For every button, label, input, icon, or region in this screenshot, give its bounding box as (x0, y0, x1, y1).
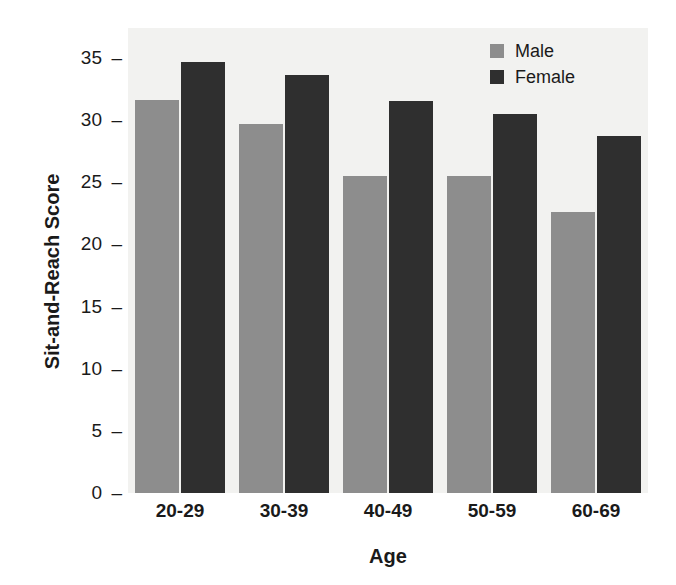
bar-30-39-male (239, 124, 283, 493)
bar-40-49-male (343, 176, 387, 493)
y-axis-tick-mark: – (111, 233, 122, 255)
x-axis-tick-label: 50-59 (468, 500, 517, 522)
y-axis-tick-label: 15 (81, 296, 102, 318)
legend-swatch-icon (490, 70, 504, 84)
legend-item-male: Male (490, 38, 575, 64)
y-axis-tick-mark: – (111, 171, 122, 193)
y-axis-tick-label: 20 (81, 233, 102, 255)
x-axis-tick-label: 20-29 (156, 500, 205, 522)
legend-swatch-icon (490, 44, 504, 58)
bar-20-29-male (135, 100, 179, 493)
legend-item-label: Female (515, 68, 575, 86)
bar-30-39-female (285, 75, 329, 493)
bar-60-69-male (551, 212, 595, 493)
y-axis-tick-label: 10 (81, 358, 102, 380)
bar-50-59-male (447, 176, 491, 493)
y-axis-tick-label: 5 (91, 420, 102, 442)
y-axis-tick-mark: – (111, 109, 122, 131)
chart-legend: MaleFemale (490, 38, 575, 90)
x-axis-tick-label: 60-69 (572, 500, 621, 522)
y-axis-tick-label: 25 (81, 171, 102, 193)
y-axis-ticks: 0–5–10–15–20–25–30–35– (0, 0, 128, 585)
y-axis-tick-mark: – (111, 296, 122, 318)
x-axis-tick-label: 40-49 (364, 500, 413, 522)
y-axis-tick-mark: – (111, 420, 122, 442)
bar-20-29-female (181, 62, 225, 493)
y-axis-tick-label: 0 (91, 482, 102, 504)
x-axis-tick-label: 30-39 (260, 500, 309, 522)
y-axis-tick-label: 30 (81, 109, 102, 131)
y-axis-tick-mark: – (111, 482, 122, 504)
plot-area (128, 28, 648, 493)
y-axis-tick-mark: – (111, 47, 122, 69)
legend-item-female: Female (490, 64, 575, 90)
bar-chart-figure: Sit-and-Reach Score 0–5–10–15–20–25–30–3… (0, 0, 676, 585)
bar-40-49-female (389, 101, 433, 493)
legend-item-label: Male (515, 42, 554, 60)
bar-60-69-female (597, 136, 641, 493)
y-axis-tick-mark: – (111, 358, 122, 380)
y-axis-tick-label: 35 (81, 47, 102, 69)
x-axis-title: Age (128, 545, 648, 568)
bar-50-59-female (493, 114, 537, 493)
